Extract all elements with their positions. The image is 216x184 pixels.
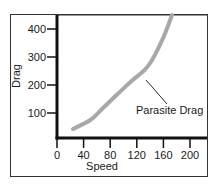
x-tick-label: 160 <box>154 149 172 161</box>
x-tick-label: 0 <box>54 149 60 161</box>
x-axis-label: Speed <box>86 160 118 172</box>
x-tick-label: 120 <box>128 149 146 161</box>
chart-canvas: 100200300400 04080120160200 Parasite Dra… <box>0 0 216 184</box>
parasite-drag-chart: 100200300400 04080120160200 Parasite Dra… <box>0 0 216 184</box>
y-tick-label: 200 <box>28 79 46 91</box>
y-tick-label: 300 <box>28 51 46 63</box>
annotation-label: Parasite Drag <box>136 104 203 116</box>
x-tick-label: 200 <box>181 149 199 161</box>
y-tick-label: 400 <box>28 23 46 35</box>
y-axis-label: Drag <box>10 64 22 88</box>
y-tick-label: 100 <box>28 107 46 119</box>
